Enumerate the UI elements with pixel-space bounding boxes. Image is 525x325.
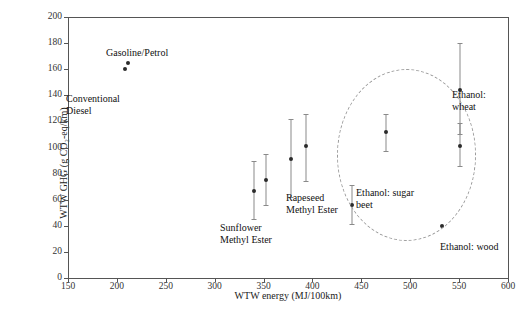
y-tick xyxy=(64,17,68,18)
data-point xyxy=(252,189,256,193)
y-tick-label: 40 xyxy=(53,221,63,231)
y-tick xyxy=(64,148,68,149)
error-bar-cap xyxy=(349,224,354,225)
y-tick-label: 180 xyxy=(48,38,62,48)
y-tick-label: 120 xyxy=(48,117,62,127)
data-point xyxy=(123,67,127,71)
y-tick-label: 80 xyxy=(53,169,63,179)
data-point xyxy=(264,178,268,182)
error-bar-cap xyxy=(303,114,308,115)
y-tick xyxy=(64,43,68,44)
error-bar-cap xyxy=(263,154,268,155)
annotation-conventional-diesel: Conventional Diesel xyxy=(66,93,120,116)
x-tick-label: 550 xyxy=(452,282,466,292)
x-tick-label: 500 xyxy=(403,282,417,292)
y-tick-label: 100 xyxy=(48,143,62,153)
x-tick-label: 200 xyxy=(110,282,124,292)
error-bar-cap xyxy=(251,219,256,220)
x-tick-label: 300 xyxy=(208,282,222,292)
annotation-ethanol-wood: Ethanol: wood xyxy=(440,241,499,253)
chart-canvas: WTW GHG (g CO₂-eq/km) WTW energy (MJ/100… xyxy=(0,0,525,325)
error-bar-cap xyxy=(251,161,256,162)
y-tick-label: 140 xyxy=(48,91,62,101)
x-tick-label: 450 xyxy=(354,282,368,292)
x-tick-label: 400 xyxy=(305,282,319,292)
annotation-gasoline-petrol: Gasoline/Petrol xyxy=(106,47,168,59)
annotation-ethanol-sugar-beet: Ethanol: sugar beet xyxy=(356,187,414,210)
y-axis-line xyxy=(68,17,69,279)
x-axis-label: WTW energy (MJ/100km) xyxy=(68,290,508,301)
y-tick-label: 20 xyxy=(53,247,63,257)
data-point xyxy=(126,61,130,65)
y-tick xyxy=(64,174,68,175)
plot-frame-top xyxy=(68,17,509,18)
y-tick xyxy=(64,200,68,201)
data-point xyxy=(304,144,308,148)
x-tick-label: 350 xyxy=(256,282,270,292)
plot-area: 020406080100120140160180200 150200250300… xyxy=(68,17,508,278)
error-bar-cap xyxy=(288,119,293,120)
x-tick-label: 600 xyxy=(501,282,515,292)
y-tick xyxy=(64,69,68,70)
y-tick xyxy=(64,226,68,227)
x-tick-label: 250 xyxy=(159,282,173,292)
y-tick xyxy=(64,121,68,122)
error-bar-cap xyxy=(263,205,268,206)
error-bar-cap xyxy=(458,43,463,44)
x-axis-line xyxy=(68,278,509,279)
annotation-ethanol-wheat: Ethanol: wheat xyxy=(452,89,486,112)
x-tick-label: 150 xyxy=(61,282,75,292)
annotation-sunflower-methyl-ester: Sunflower Methyl Ester xyxy=(220,222,272,245)
y-tick xyxy=(64,252,68,253)
y-tick-label: 160 xyxy=(48,64,62,74)
error-bar-cap xyxy=(303,181,308,182)
plot-frame-right xyxy=(508,17,509,279)
data-point xyxy=(289,157,293,161)
annotation-rapeseed-methyl-ester: Rapeseed Methyl Ester xyxy=(286,192,338,215)
y-tick-label: 200 xyxy=(48,12,62,22)
y-tick-label: 60 xyxy=(53,195,63,205)
